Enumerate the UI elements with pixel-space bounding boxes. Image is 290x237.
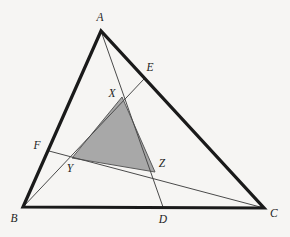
- point-label-a: A: [96, 12, 103, 24]
- diagram-canvas: [0, 0, 290, 237]
- cevian-f-to-c: [49, 151, 264, 208]
- point-label-b: B: [10, 213, 17, 225]
- point-label-f: F: [33, 140, 40, 152]
- point-label-x: X: [108, 88, 115, 100]
- point-label-y: Y: [67, 163, 74, 175]
- point-label-e: E: [146, 62, 153, 74]
- point-label-z: Z: [159, 158, 166, 170]
- triangle-abc-outline: [23, 31, 264, 208]
- point-label-d: D: [159, 214, 168, 226]
- geometry-figure: A B C D E F X Y Z: [0, 0, 290, 237]
- point-label-c: C: [270, 208, 278, 220]
